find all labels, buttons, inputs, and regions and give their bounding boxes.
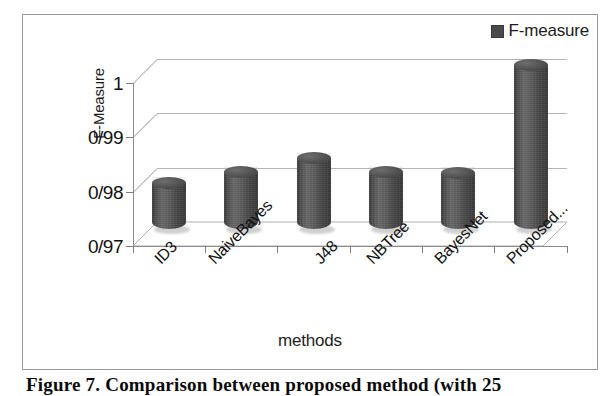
bar-body [297,158,331,229]
bar-proposed [514,59,548,229]
bar-id3 [152,177,186,229]
x-axis-title: methods [23,331,597,351]
x-tick-5 [494,246,495,253]
legend-swatch-f-measure [491,25,504,38]
y-axis-line [133,83,134,246]
x-tick-1 [205,246,206,253]
x-tick-0 [133,246,134,253]
bar-body [514,65,548,229]
bar-cap [152,177,186,189]
y-tick-label-0-98: 0/98 [63,183,123,202]
figure-caption: Figure 7. Comparison between proposed me… [26,374,606,396]
gridline-0-99 [157,113,567,114]
bar-cap [297,152,331,164]
chart-frame: F-measure F-Measure 1 0/99 0/98 [22,14,598,370]
y-tick-0-99 [126,137,134,138]
chart-legend: F-measure [491,21,589,41]
gridline-1 [157,59,567,60]
y-tick-label-0-97: 0/97 [63,237,123,256]
x-tick-2 [277,246,278,253]
bar-body [152,183,186,229]
bar-j48 [297,152,331,229]
y-tick-1 [126,83,134,84]
legend-label-f-measure: F-measure [509,21,589,41]
bar-cap [514,59,548,71]
depth-connector-1 [133,59,158,84]
y-tick-0-98 [126,192,134,193]
bar-cap [224,166,258,178]
gridline-0-98 [157,168,567,169]
plot-area: 1 0/99 0/98 0/97 [63,39,591,269]
bar-cap [369,166,403,178]
y-tick-label-0-99: 0/99 [63,128,123,147]
x-tick-4 [422,246,423,253]
bar-cap [441,167,475,179]
y-tick-label-1: 1 [63,74,123,93]
x-tick-3 [350,246,351,253]
x-tick-6 [567,246,568,253]
depth-connector-0-99 [133,113,158,138]
